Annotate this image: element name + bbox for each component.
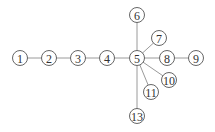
node-6: 6 (130, 8, 145, 23)
node-5: 5 (130, 51, 145, 66)
node-label: 13 (131, 110, 143, 124)
node-10: 10 (162, 73, 177, 88)
nodes-layer: 123456789101113 (13, 8, 204, 124)
node-label: 11 (145, 86, 157, 100)
node-label: 8 (164, 52, 170, 66)
node-label: 4 (104, 52, 110, 66)
node-label: 6 (134, 9, 140, 23)
node-7: 7 (152, 31, 167, 46)
node-1: 1 (13, 51, 28, 66)
node-13: 13 (130, 109, 145, 124)
node-2: 2 (42, 51, 57, 66)
node-8: 8 (160, 51, 175, 66)
node-3: 3 (71, 51, 86, 66)
node-label: 9 (193, 52, 199, 66)
node-label: 3 (75, 52, 81, 66)
node-label: 1 (17, 52, 23, 66)
node-label: 5 (134, 52, 140, 66)
node-4: 4 (100, 51, 115, 66)
tree-diagram: 123456789101113 (0, 0, 215, 132)
node-label: 10 (163, 74, 175, 88)
node-11: 11 (144, 85, 159, 100)
node-label: 7 (156, 32, 162, 46)
node-label: 2 (46, 52, 52, 66)
node-9: 9 (189, 51, 204, 66)
